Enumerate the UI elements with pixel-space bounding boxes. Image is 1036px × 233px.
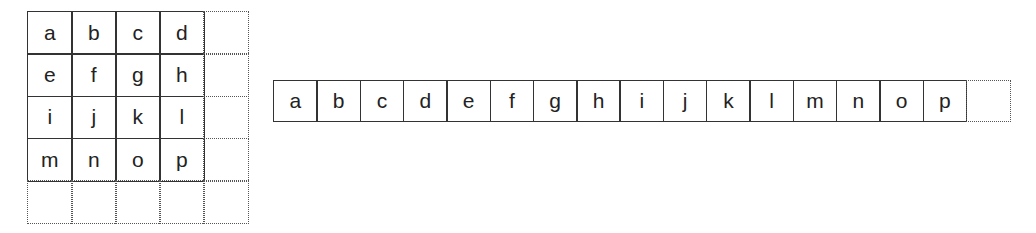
grid-empty-dotted-cell [71,180,117,224]
grid-cell: m [27,138,73,182]
grid-cell: a [27,11,73,55]
strip-cell: o [879,80,924,122]
strip-cell: f [490,80,535,122]
grid-cell: p [159,138,205,182]
grid-cell: o [115,138,161,182]
grid-cell: j [71,96,117,140]
grid-cell: c [115,11,161,55]
strip-cell: m [793,80,838,122]
strip-cell: a [273,80,318,122]
grid-cell: l [159,96,205,140]
grid-cell: d [159,11,205,55]
grid-cell: i [27,96,73,140]
grid-cell: h [159,53,205,97]
strip-cell: n [836,80,881,122]
grid-cell: n [71,138,117,182]
grid-empty-dotted-cell [203,180,249,224]
strip-cell: d [403,80,448,122]
grid-empty-dotted-cell [203,96,249,140]
strip-cell: i [619,80,664,122]
strip-cell: c [360,80,405,122]
strip-cell: e [446,80,491,122]
strip-cell: k [706,80,751,122]
grid-cell: g [115,53,161,97]
strip-cell: b [316,80,361,122]
grid-empty-dotted-cell [115,180,161,224]
grid-empty-dotted-cell [203,11,249,55]
grid-cell: e [27,53,73,97]
grid-empty-dotted-cell [203,138,249,182]
grid-empty-dotted-cell [27,180,73,224]
strip-cell: h [576,80,621,122]
grid-cell: f [71,53,117,97]
grid-empty-dotted-cell [203,53,249,97]
strip-cell: g [533,80,578,122]
strip-cell: l [749,80,794,122]
strip-empty-dotted-cell [966,80,1011,122]
grid-empty-dotted-cell [159,180,205,224]
strip-cell: p [923,80,968,122]
strip-cell: j [663,80,708,122]
grid-cell: k [115,96,161,140]
grid-cell: b [71,11,117,55]
